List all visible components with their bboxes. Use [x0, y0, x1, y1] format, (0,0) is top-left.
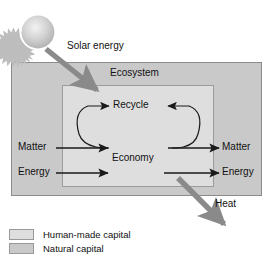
heat-label: Heat: [215, 199, 236, 209]
legend-label-natural-capital: Natural capital: [43, 243, 104, 254]
legend-label-human-made-capital: Human-made capital: [43, 229, 131, 240]
economy-label: Economy: [112, 153, 154, 163]
energy-in-label: Energy: [18, 167, 50, 177]
legend: Human-made capital Natural capital: [9, 228, 131, 256]
legend-item-natural-capital: Natural capital: [9, 242, 131, 255]
diagram-svg: [0, 0, 273, 266]
diagram-canvas: Solar energy Ecosystem Recycle Economy M…: [0, 0, 273, 266]
natural-capital-swatch: [9, 243, 34, 254]
recycle-label: Recycle: [113, 100, 149, 110]
ecosystem-label: Ecosystem: [110, 68, 159, 78]
solar-energy-label: Solar energy: [67, 41, 124, 51]
matter-out-label: Matter: [222, 142, 250, 152]
legend-item-human-made-capital: Human-made capital: [9, 228, 131, 241]
sun-icon: [0, 15, 55, 68]
energy-out-label: Energy: [222, 167, 254, 177]
human-made-capital-swatch: [9, 229, 34, 240]
matter-in-label: Matter: [18, 142, 46, 152]
